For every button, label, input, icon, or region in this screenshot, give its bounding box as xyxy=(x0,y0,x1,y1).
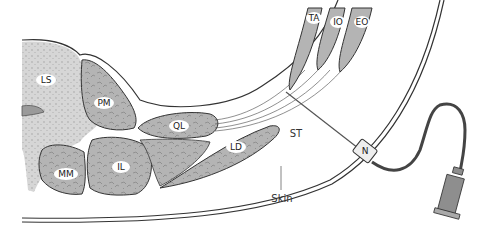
svg-text:EO: EO xyxy=(356,17,369,27)
label-io: IO xyxy=(330,16,346,28)
extension-tubing xyxy=(372,104,465,172)
svg-text:LS: LS xyxy=(41,75,52,85)
svg-text:PM: PM xyxy=(97,98,110,108)
anatomy-diagram: LS PM QL MM IL LD TA IO EO N ST Skin xyxy=(0,0,491,230)
label-skin: Skin xyxy=(271,193,292,204)
svg-text:QL: QL xyxy=(173,121,185,131)
label-pm: PM xyxy=(94,97,114,109)
needle xyxy=(286,92,358,148)
svg-text:TA: TA xyxy=(308,13,321,23)
label-ta: TA xyxy=(306,12,322,24)
label-eo: EO xyxy=(354,16,370,28)
svg-text:MM: MM xyxy=(58,169,74,179)
label-ql: QL xyxy=(169,120,189,132)
svg-text:LD: LD xyxy=(230,142,242,152)
psoas-major xyxy=(81,60,136,130)
syringe xyxy=(434,167,465,219)
svg-text:N: N xyxy=(362,146,369,156)
label-n: N xyxy=(362,146,369,156)
label-ld: LD xyxy=(226,141,246,153)
label-ls: LS xyxy=(36,74,56,86)
iliocostalis xyxy=(87,137,210,195)
label-il: IL xyxy=(112,161,130,173)
label-mm: MM xyxy=(54,168,78,180)
aponeurosis-fibers xyxy=(215,70,342,131)
label-st: ST xyxy=(290,128,303,139)
svg-text:IO: IO xyxy=(333,17,343,27)
svg-text:IL: IL xyxy=(117,162,125,172)
